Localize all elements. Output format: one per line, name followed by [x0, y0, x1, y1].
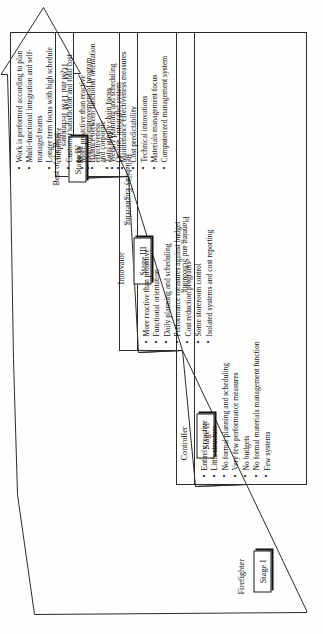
list-item: Work is performed according to plan	[14, 37, 23, 169]
list-item: No formal materials management function	[251, 277, 260, 477]
list-item: Technical innovations	[139, 37, 148, 169]
list-item: Functional orientation	[151, 143, 160, 343]
stage-role-2: Controller	[179, 426, 188, 460]
list-item: On-line, integrated system	[113, 37, 122, 169]
list-item: Isolated systems and cost reporting	[204, 143, 213, 343]
list-item: No formal planning and scheduling	[220, 277, 229, 477]
stage-label-1: Stage I	[258, 559, 267, 583]
list-item: Daily planning and scheduling	[162, 143, 171, 343]
band-label-reliability-engineering: Reliability Engineering	[123, 109, 132, 269]
list-item: Some storeroom control	[193, 143, 202, 343]
band-label-planning-and-scheduling: Planning and Scheduling	[180, 174, 189, 334]
list-item: Multi-functional integration and self-ma…	[24, 37, 42, 169]
stage-role-1: Firefighter	[236, 559, 245, 594]
bullet-list-stage-2: More reactive than proactive Functional …	[141, 143, 214, 343]
list-item: Very few performance measures	[230, 277, 239, 477]
list-item: Ongoing improvement of program effective…	[83, 37, 101, 169]
stage-box-stage-1[interactable]: Stage I	[253, 550, 271, 592]
list-item: Materials management focus	[149, 37, 158, 169]
list-item: More reactive than proactive	[141, 143, 150, 343]
diagram-canvas: Stage I Firefighter Stage II Controller …	[0, 0, 323, 634]
list-item: Computerized management system	[159, 37, 168, 169]
bullet-list-stage-4: Work is performed according to plan Mult…	[14, 37, 124, 169]
list-item: No budgets	[241, 277, 250, 477]
rotated-diagram-wrapper: Stage I Firefighter Stage II Controller …	[0, 0, 323, 634]
list-item: Few systems	[262, 277, 271, 477]
screenshot-page: Stage I Firefighter Stage II Controller …	[0, 0, 323, 634]
band-label-tqm-and-tpm-techniques: TQM and TPM Techniques	[59, 24, 68, 184]
list-item: Total supply chain focus	[103, 37, 112, 169]
